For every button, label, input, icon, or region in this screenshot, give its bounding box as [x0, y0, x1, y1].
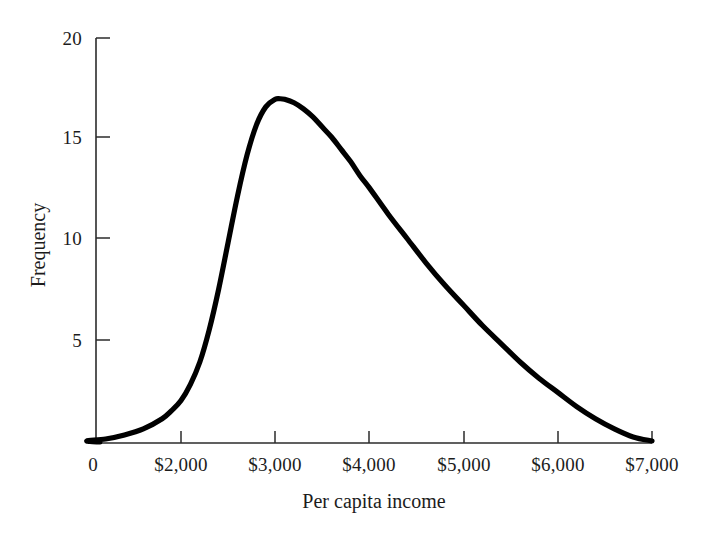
x-tick-label-3000: $3,000 [248, 455, 301, 474]
axis-lines [96, 38, 652, 443]
x-tick-label-5000: $5,000 [437, 455, 490, 474]
x-axis-title: Per capita income [302, 490, 445, 513]
frequency-distribution-chart: 20 15 10 5 0 $2,000 $3,000 $4,000 $5,000… [0, 0, 711, 544]
x-tick-label-0: 0 [88, 455, 98, 474]
x-tick-marks [181, 431, 652, 443]
x-tick-label-2000: $2,000 [154, 455, 207, 474]
x-tick-label-4000: $4,000 [342, 455, 395, 474]
y-tick-label-5: 5 [40, 331, 82, 350]
y-tick-marks [96, 38, 110, 340]
x-tick-label-7000: $7,000 [625, 455, 678, 474]
frequency-curve [87, 99, 652, 442]
y-axis-title: Frequency [27, 203, 50, 287]
y-tick-label-15: 15 [40, 128, 82, 147]
x-tick-label-6000: $6,000 [531, 455, 584, 474]
y-tick-label-20: 20 [40, 29, 82, 48]
